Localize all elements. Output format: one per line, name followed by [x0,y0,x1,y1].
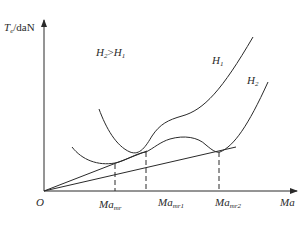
origin-label: O [36,197,44,208]
marker-label-mr2: Mamr2 [215,197,241,210]
marker-label-mr: Mamr [99,199,121,212]
curve-label-h2: H2 [247,75,258,88]
y-axis-label: Te/daN [4,22,35,35]
condition-label: H2>H1 [96,47,125,60]
curve-h2 [72,82,268,164]
diagram-graphics [0,0,307,225]
marker-label-mr1: Mamr1 [158,197,184,210]
curve-label-h1: H1 [212,55,223,68]
thrust-mach-diagram: Te/daN H2>H1 H1 H2 O Mamr Mamr1 Mamr2 Ma [0,0,307,225]
x-axis-label: Ma [280,197,295,208]
